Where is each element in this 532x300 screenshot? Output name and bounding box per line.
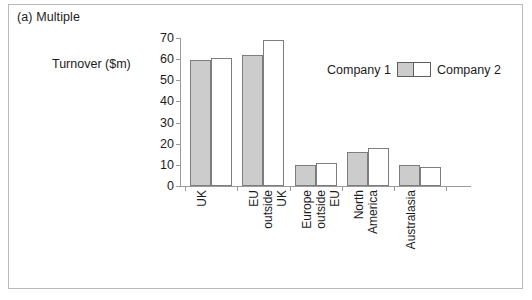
y-tick-50 xyxy=(176,80,180,81)
y-axis-label: Turnover ($m) xyxy=(52,57,131,71)
legend-swatch-company-1 xyxy=(398,63,415,76)
bar-company-1-europe-outside-eu xyxy=(295,165,316,186)
x-label-word: outside xyxy=(315,190,327,229)
y-tick-label-50: 50 xyxy=(160,74,174,87)
bar-company-2-eu-outside-uk xyxy=(263,40,284,186)
x-label-word: EU xyxy=(329,190,341,207)
y-tick-label-0: 0 xyxy=(167,180,174,193)
plot-area: 010203040506070 xyxy=(181,38,471,186)
chart-screenshot: (a) Multiple Turnover ($m) 0102030405060… xyxy=(0,0,532,300)
x-label-word: UK xyxy=(196,190,208,207)
y-tick-70 xyxy=(176,38,180,39)
x-label-word: outside xyxy=(262,190,274,229)
legend-label-company-1: Company 1 xyxy=(327,63,391,77)
y-tick-label-30: 30 xyxy=(160,116,174,129)
bar-company-2-north-america xyxy=(368,148,389,186)
bar-company-1-eu-outside-uk xyxy=(242,55,263,186)
y-tick-10 xyxy=(176,165,180,166)
bar-company-1-australasia xyxy=(399,165,420,186)
legend-swatch xyxy=(397,62,431,77)
x-label-word: North xyxy=(353,190,365,219)
y-tick-label-10: 10 xyxy=(160,159,174,172)
y-tick-20 xyxy=(176,144,180,145)
x-axis-line xyxy=(180,186,471,187)
x-label-word: America xyxy=(367,190,379,234)
bar-company-1-uk xyxy=(190,60,211,186)
bar-company-1-north-america xyxy=(347,152,368,186)
legend-swatch-company-2 xyxy=(414,63,430,76)
chart-title: (a) Multiple xyxy=(17,10,80,24)
y-tick-label-70: 70 xyxy=(160,32,174,45)
y-axis-line xyxy=(180,38,181,187)
y-tick-label-20: 20 xyxy=(160,137,174,150)
y-tick-0 xyxy=(176,186,180,187)
bar-company-2-australasia xyxy=(420,167,441,186)
legend-label-company-2: Company 2 xyxy=(437,63,501,77)
bar-company-2-uk xyxy=(211,58,232,186)
x-axis-category-labels: UKEUoutsideUKEuropeoutsideEUNorthAmerica… xyxy=(181,190,481,290)
x-label-word: UK xyxy=(276,190,288,207)
y-tick-label-40: 40 xyxy=(160,95,174,108)
y-tick-40 xyxy=(176,101,180,102)
y-tick-30 xyxy=(176,123,180,124)
y-tick-label-60: 60 xyxy=(160,53,174,66)
bar-company-2-europe-outside-eu xyxy=(316,163,337,186)
x-label-word: Australasia xyxy=(405,190,417,249)
x-label-word: Europe xyxy=(301,190,313,229)
chart-legend: Company 1 Company 2 xyxy=(327,62,501,77)
y-tick-60 xyxy=(176,59,180,60)
x-label-word: EU xyxy=(248,190,260,207)
